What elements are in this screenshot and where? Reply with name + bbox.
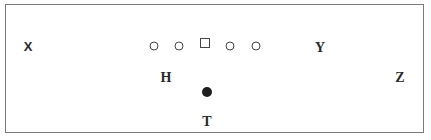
quarterback-dot-icon <box>202 87 212 97</box>
diagram-frame <box>5 4 424 133</box>
lineman-circle-icon <box>252 42 261 51</box>
player-x-label: X <box>24 40 33 53</box>
lineman-circle-icon <box>175 42 184 51</box>
player-h-label: H <box>161 71 172 85</box>
lineman-circle-icon <box>226 42 235 51</box>
center-square-icon <box>200 38 210 48</box>
player-y-label: Y <box>315 41 325 55</box>
player-t-label: T <box>202 115 211 129</box>
lineman-circle-icon <box>150 42 159 51</box>
player-z-label: Z <box>395 71 404 85</box>
